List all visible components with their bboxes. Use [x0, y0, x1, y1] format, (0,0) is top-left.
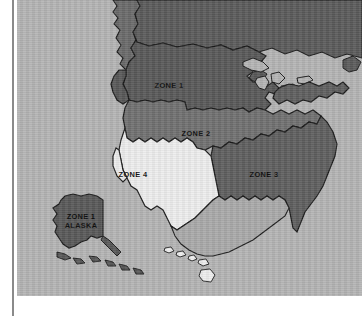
alaska-zone-label: ZONE 1	[67, 212, 96, 221]
zone-1-label: ZONE 1	[155, 81, 184, 90]
aleutian-island-1	[57, 252, 71, 260]
alaska-inset	[53, 194, 144, 274]
zone-2-label: ZONE 2	[182, 129, 211, 138]
zone-1-northeast	[273, 82, 349, 104]
hawaii-island-molokai	[188, 255, 197, 261]
alaska-name-label: ALASKA	[65, 221, 98, 230]
lake-huron	[271, 72, 285, 84]
hawaii-island-oahu	[176, 251, 186, 257]
hawaii-island-big-island	[199, 269, 215, 282]
aleutian-island-3	[89, 256, 101, 262]
maine-maritimes	[343, 56, 361, 72]
hawaii-island-maui	[198, 259, 209, 266]
northeast-region	[273, 56, 361, 104]
zone-3-label: ZONE 3	[250, 170, 279, 179]
alaska-panhandle	[101, 236, 121, 256]
left-margin-rule	[12, 0, 14, 316]
map-page: ZONE 1 ZONE 2 ZONE 3 ZONE 4 ZONE 1 ALASK…	[0, 0, 362, 316]
zone-map-panel: ZONE 1 ZONE 2 ZONE 3 ZONE 4 ZONE 1 ALASK…	[17, 0, 362, 296]
aleutian-island-4	[105, 260, 116, 266]
aleutian-island-2	[73, 258, 85, 264]
aleutian-islands	[57, 252, 144, 274]
aleutian-island-6	[133, 268, 144, 274]
hawaii-island-kauai	[164, 247, 174, 253]
zone-4-label: ZONE 4	[119, 170, 148, 179]
aleutian-island-5	[119, 264, 130, 270]
zone-map-graphic: ZONE 1 ZONE 2 ZONE 3 ZONE 4 ZONE 1 ALASK…	[17, 0, 362, 296]
